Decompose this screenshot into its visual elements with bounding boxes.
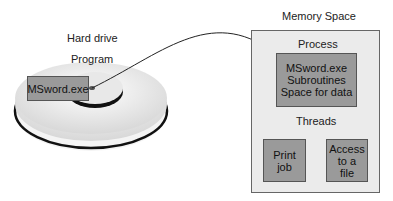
thread-print-line-2: job bbox=[277, 161, 292, 173]
process-line-2: Subroutines bbox=[287, 74, 346, 86]
msword-file-label: MSword.exe bbox=[27, 83, 88, 95]
thread-access-line-1: Access bbox=[329, 143, 364, 155]
thread-access-file-box: Access to a file bbox=[326, 139, 368, 182]
msword-file-box: MSword.exe bbox=[27, 76, 89, 101]
process-label: Process bbox=[298, 38, 338, 50]
hard-drive-label: Hard drive bbox=[67, 32, 118, 44]
threads-label: Threads bbox=[296, 115, 336, 127]
process-line-3: Space for data bbox=[281, 86, 353, 98]
memory-space-title: Memory Space bbox=[282, 10, 356, 22]
thread-access-line-3: file bbox=[340, 167, 354, 179]
thread-access-line-2: to a bbox=[338, 155, 356, 167]
thread-print-job-box: Print job bbox=[263, 139, 306, 182]
thread-print-line-1: Print bbox=[273, 149, 296, 161]
program-label: Program bbox=[71, 53, 113, 65]
process-line-1: MSword.exe bbox=[286, 62, 347, 74]
process-box: MSword.exe Subroutines Space for data bbox=[276, 53, 357, 107]
